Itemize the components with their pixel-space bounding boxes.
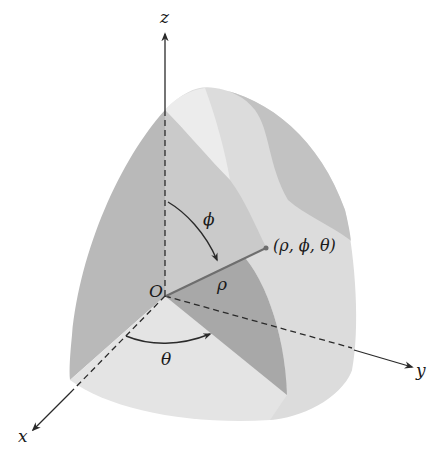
y-axis xyxy=(354,350,412,367)
spherical-coordinates-diagram: z y x O ϕ θ ρ (ρ, ϕ, θ) xyxy=(0,0,441,455)
z-axis-label: z xyxy=(159,7,170,27)
y-axis-label: y xyxy=(415,360,426,380)
point-coordinates-label: (ρ, ϕ, θ) xyxy=(273,236,336,255)
theta-label: θ xyxy=(161,349,171,369)
rho-label: ρ xyxy=(216,274,227,294)
x-axis-label: x xyxy=(18,426,28,446)
point-marker xyxy=(264,246,269,251)
origin-label: O xyxy=(149,281,163,301)
phi-label: ϕ xyxy=(203,209,215,229)
x-axis xyxy=(33,393,70,430)
